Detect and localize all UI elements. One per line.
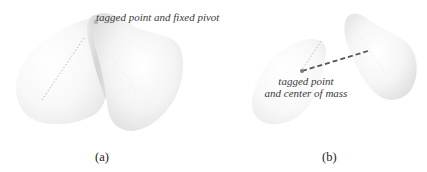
tagged-point-b [300, 69, 304, 73]
annotation-a: tagged point and fixed pivot [96, 11, 219, 23]
annotation-b-line2: and center of mass [258, 87, 354, 99]
panel-label-b: (b) [322, 150, 337, 164]
annotation-b-line1: tagged point [258, 75, 354, 87]
body-b-right [345, 13, 417, 99]
annotation-b: tagged point and center of mass [258, 75, 354, 99]
figure-canvas [0, 0, 427, 172]
panel-b-shapes [252, 13, 417, 124]
body-a-right [92, 13, 183, 131]
panel-label-a: (a) [95, 150, 109, 164]
figure: tagged point and fixed pivot tagged poin… [0, 0, 427, 172]
panel-a-shapes [16, 13, 183, 131]
